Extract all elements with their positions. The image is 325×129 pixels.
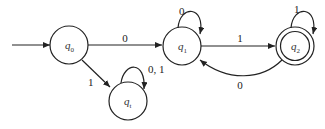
state-q1-sub: 1 — [184, 47, 188, 55]
state-q2-sub: 2 — [297, 47, 301, 55]
state-qt: qt — [109, 82, 147, 120]
edge-q0-q1-label: 0 — [122, 32, 128, 44]
state-q1: q1 — [163, 27, 201, 65]
state-q0-sub: 0 — [71, 46, 75, 54]
edge-qt-loop-label: 0, 1 — [148, 63, 165, 75]
edge-q0-qt-label: 1 — [88, 76, 94, 88]
edge-q2-q1-label: 0 — [237, 79, 243, 91]
edge-q2-loop-label: 1 — [294, 3, 300, 15]
state-q0: q0 — [50, 26, 88, 64]
edge-q0-qt — [82, 60, 110, 87]
edge-q2-q1 — [200, 60, 282, 76]
state-q2: q2 — [276, 27, 314, 65]
edge-q1-q2-label: 1 — [237, 32, 243, 44]
edge-q1-loop-label: 0 — [179, 5, 185, 17]
state-qt-sub: t — [130, 102, 132, 110]
dfa-diagram: q0 0 1 qt 0, 1 q1 0 1 q2 1 0 — [0, 0, 325, 129]
